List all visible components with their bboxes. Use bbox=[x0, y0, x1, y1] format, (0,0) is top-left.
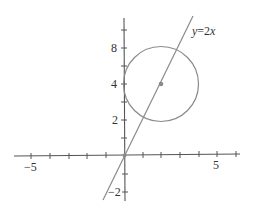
origin-point bbox=[123, 154, 127, 158]
y-tick-label-4: 4 bbox=[111, 77, 117, 91]
y-tick-label-2: 2 bbox=[112, 113, 118, 127]
line-label: y=2x bbox=[191, 24, 216, 38]
y-axis bbox=[121, 18, 128, 201]
x-tick-label-neg5: −5 bbox=[24, 160, 37, 174]
y-tick-label-8: 8 bbox=[111, 41, 117, 55]
x-tick-label-5: 5 bbox=[213, 158, 219, 172]
coordinate-plane: −5 5 8 4 2 −2 y=2x bbox=[0, 0, 255, 214]
